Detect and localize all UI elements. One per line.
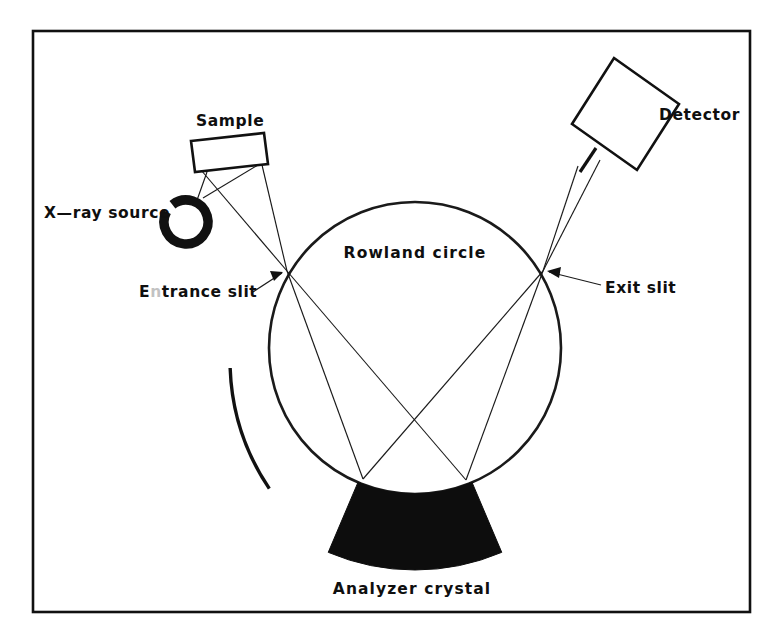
label-rowland-circle: Rowland circle — [344, 244, 487, 262]
entrance-slit-suffix: trance slit — [162, 283, 258, 301]
exit-slit-to-detector-right — [543, 160, 600, 271]
detector-stem — [580, 148, 596, 172]
label-exit-slit: Exit slit — [605, 279, 676, 297]
crystal-left-to-exit-slit — [363, 271, 543, 479]
ray-bundle — [196, 160, 600, 480]
label-analyzer-crystal: Analyzer crystal — [333, 580, 491, 598]
analyzer-crystal — [328, 482, 501, 570]
sample-box — [191, 133, 268, 172]
entrance-slit-prefix: E — [139, 283, 150, 301]
label-xray-source: X—ray source — [44, 204, 170, 222]
entrance-slit-faded-letter: n — [150, 283, 162, 301]
label-entrance-slit: Entrance slit — [139, 283, 257, 301]
crystal-right-to-exit-slit — [466, 271, 543, 480]
exit-slit-to-detector-left — [543, 166, 578, 271]
xray-source-ring — [164, 200, 208, 244]
sample-right-corner-to-entrance-slit — [262, 165, 287, 271]
entrance-slit-to-crystal-left — [287, 271, 363, 479]
figure-root: Sample X—ray source Entrance slit Rowlan… — [0, 0, 779, 633]
label-detector: Detector — [659, 106, 740, 124]
label-sample: Sample — [196, 112, 264, 130]
entrance-slit-to-crystal-right — [287, 271, 466, 480]
rowland-circle-spectrometer-diagram: Sample X—ray source Entrance slit Rowlan… — [0, 0, 779, 633]
detector-collimator-arc — [230, 368, 269, 489]
sample-left-corner-to-entrance-slit — [201, 170, 287, 271]
